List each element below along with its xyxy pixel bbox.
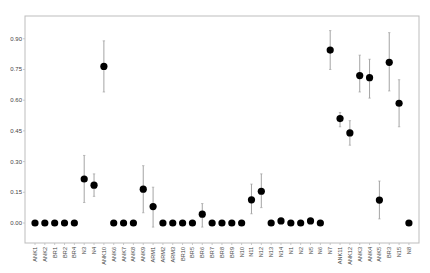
data-point [268,219,275,226]
x-tick-label: N4 [91,247,97,254]
data-point [179,219,186,226]
data-point [169,219,176,226]
error-bars [83,31,400,228]
x-axis: ANK1ANK2BR1BR2BR4N3N4ANK10ANK6ANK7ANK8AN… [32,243,412,265]
data-point [209,219,216,226]
data-point [110,219,117,226]
x-tick-label: ARM3 [170,247,176,263]
data-point [199,211,206,218]
x-tick-label: BR10 [180,247,186,261]
x-tick-label: BR9 [229,247,235,258]
x-tick-label: N2 [298,247,304,254]
x-tick-label: ANK6 [111,247,117,262]
x-tick-label: N1 [288,247,294,254]
x-tick-label: N13 [268,247,274,257]
data-point [90,182,97,189]
data-point [130,219,137,226]
x-tick-label: ANK12 [347,247,353,265]
data-point [297,219,304,226]
y-axis: 0.000.150.300.450.600.750.90 [10,36,25,226]
x-tick-label: BR3 [386,247,392,258]
x-tick-label: ANK7 [121,247,127,262]
error-bar-chart: 0.000.150.300.450.600.750.90 ANK1ANK2BR1… [0,0,430,273]
data-point [228,219,235,226]
x-tick-label: ANK10 [101,247,107,265]
x-tick-label: ANK8 [130,247,136,262]
data-point [287,219,294,226]
x-tick-label: BR2 [62,247,68,258]
data-point [238,219,245,226]
x-tick-label: N5 [308,247,314,254]
x-tick-label: ANK9 [140,247,146,262]
x-tick-label: BR4 [71,247,77,258]
x-tick-label: N15 [396,247,402,257]
x-tick-label: BR6 [199,247,205,258]
y-tick-label: 0.15 [10,189,22,195]
data-point [140,186,147,193]
data-point [218,219,225,226]
x-tick-label: ANK2 [42,247,48,262]
x-tick-label: N6 [317,247,323,254]
data-point [71,219,78,226]
x-tick-label: ANK1 [32,247,38,262]
x-tick-label: N7 [327,247,333,254]
x-tick-label: N8 [406,247,412,254]
data-point [317,219,324,226]
x-tick-label: ARM1 [150,247,156,263]
x-tick-label: ANK3 [357,247,363,262]
x-tick-label: ANK5 [376,247,382,262]
data-point [376,196,383,203]
data-point [100,63,107,70]
x-tick-label: N11 [248,247,254,257]
data-point [248,196,255,203]
data-markers [31,46,412,226]
data-point [336,115,343,122]
y-tick-label: 0.90 [10,36,22,42]
data-point [41,219,48,226]
y-tick-label: 0.30 [10,159,22,165]
x-tick-label: ARM2 [160,247,166,263]
data-point [386,59,393,66]
data-point [61,219,68,226]
data-point [159,219,166,226]
data-point [149,203,156,210]
x-tick-label: N14 [278,247,284,257]
data-point [356,72,363,79]
data-point [395,100,402,107]
x-tick-label: BR7 [209,247,215,258]
data-point [81,175,88,182]
x-tick-label: ANK4 [367,247,373,262]
y-tick-label: 0.45 [10,128,22,134]
y-tick-label: 0.75 [10,66,22,72]
y-tick-label: 0.00 [10,220,22,226]
x-tick-label: BR1 [52,247,58,258]
data-point [327,46,334,53]
x-tick-label: BR8 [219,247,225,258]
x-tick-label: BR5 [189,247,195,258]
data-point [258,188,265,195]
data-point [346,129,353,136]
x-tick-label: ANK11 [337,247,343,264]
y-tick-label: 0.60 [10,97,22,103]
data-point [366,74,373,81]
data-point [277,217,284,224]
data-point [189,219,196,226]
data-point [405,219,412,226]
x-tick-label: N3 [81,247,87,254]
plot-frame [25,16,419,243]
x-tick-label: N10 [239,247,245,257]
data-point [307,217,314,224]
data-point [120,219,127,226]
data-point [51,219,58,226]
x-tick-label: N12 [258,247,264,257]
data-point [31,219,38,226]
